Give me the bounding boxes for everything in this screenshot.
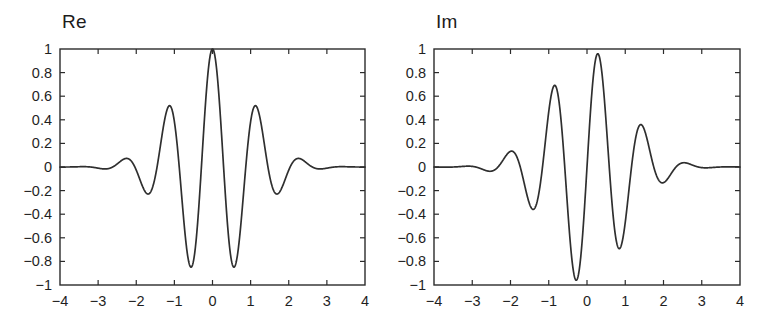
y-tick-label: 1 — [44, 41, 52, 57]
figure-container: Re −1−0.8−0.6−0.4−0.200.20.40.60.81−4−3−… — [0, 0, 771, 327]
y-tick-label: 0 — [44, 159, 52, 175]
y-tick-label: 0.8 — [32, 65, 52, 81]
y-tick-label: 0.4 — [406, 112, 426, 128]
plot-svg-im: −1−0.8−0.6−0.4−0.200.20.40.60.81−4−3−2−1… — [380, 0, 765, 327]
data-curve — [434, 54, 740, 281]
y-tick-label: 0.6 — [32, 88, 52, 104]
y-tick-label: 0.2 — [32, 135, 52, 151]
x-tick-label: −4 — [52, 293, 69, 309]
x-tick-label: −3 — [464, 293, 481, 309]
y-tick-label: −1 — [409, 277, 426, 293]
data-curve — [60, 49, 365, 267]
axis-frame — [60, 49, 365, 285]
x-tick-label: 2 — [285, 293, 293, 309]
y-tick-label: −0.8 — [23, 253, 52, 269]
plot-svg-re: −1−0.8−0.6−0.4−0.200.20.40.60.81−4−3−2−1… — [0, 0, 385, 327]
y-tick-label: −1 — [35, 277, 52, 293]
y-tick-label: 0.6 — [406, 88, 426, 104]
x-tick-label: 3 — [698, 293, 706, 309]
y-tick-label: −0.2 — [23, 183, 52, 199]
y-tick-label: −0.8 — [397, 253, 426, 269]
y-tick-label: 0.2 — [406, 135, 426, 151]
y-tick-label: 1 — [418, 41, 426, 57]
x-tick-label: −1 — [166, 293, 183, 309]
x-tick-label: −3 — [90, 293, 107, 309]
plot-panel-im: Im −1−0.8−0.6−0.4−0.200.20.40.60.81−4−3−… — [380, 0, 765, 327]
x-tick-label: 4 — [736, 293, 744, 309]
y-tick-label: −0.2 — [397, 183, 426, 199]
x-tick-label: 3 — [323, 293, 331, 309]
x-tick-label: −2 — [128, 293, 145, 309]
x-tick-label: −4 — [426, 293, 443, 309]
plot-panel-re: Re −1−0.8−0.6−0.4−0.200.20.40.60.81−4−3−… — [0, 0, 385, 327]
x-tick-label: 0 — [583, 293, 591, 309]
y-tick-label: −0.4 — [397, 206, 426, 222]
y-tick-label: 0.4 — [32, 112, 52, 128]
x-tick-label: 1 — [247, 293, 255, 309]
y-tick-label: 0 — [418, 159, 426, 175]
y-tick-label: 0.8 — [406, 65, 426, 81]
y-tick-label: −0.6 — [23, 230, 52, 246]
y-tick-label: −0.4 — [23, 206, 52, 222]
x-tick-label: 1 — [621, 293, 629, 309]
x-tick-label: −1 — [540, 293, 557, 309]
x-tick-label: −2 — [502, 293, 519, 309]
x-tick-label: 4 — [361, 293, 369, 309]
x-tick-label: 0 — [208, 293, 216, 309]
x-tick-label: 2 — [659, 293, 667, 309]
y-tick-label: −0.6 — [397, 230, 426, 246]
